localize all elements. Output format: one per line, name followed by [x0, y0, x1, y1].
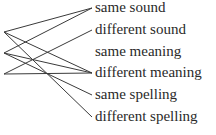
label-same-meaning: same meaning: [95, 44, 181, 59]
label-different-sound: different sound: [95, 22, 186, 37]
label-same-sound: same sound: [95, 0, 165, 15]
connection-line: [4, 73, 92, 74]
connection-line: [4, 8, 92, 32]
connection-line: [4, 8, 92, 53]
label-different-meaning: different meaning: [95, 65, 202, 80]
label-same-spelling: same spelling: [95, 87, 177, 102]
connection-line: [4, 53, 92, 73]
label-different-spelling: different spelling: [95, 109, 198, 124]
